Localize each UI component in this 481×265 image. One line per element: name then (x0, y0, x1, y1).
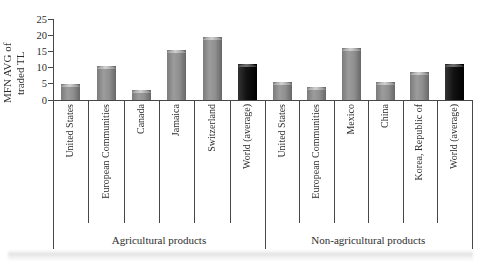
bar-nonagri-china (376, 82, 395, 100)
category-separator (368, 100, 369, 223)
y-tick-label-10: 10 (19, 61, 47, 74)
category-separator (334, 100, 335, 223)
category-separator (159, 100, 160, 223)
bar-agri-united-states (61, 84, 80, 100)
group-label-non-agricultural-products: Non-agricultural products (265, 234, 472, 247)
category-separator (194, 100, 195, 223)
bar-top-highlight (273, 82, 292, 85)
mid-group-divider (265, 100, 266, 249)
bar-nonagri-european-communities (307, 87, 326, 100)
y-tick-label-5: 5 (19, 77, 47, 90)
bar-nonagri-mexico (342, 48, 361, 100)
bar-top-highlight (61, 84, 80, 87)
left-group-border (53, 100, 54, 249)
category-label-agri-jamaica: Jamaica (170, 104, 182, 136)
category-label-nonagri-china: China (379, 104, 391, 128)
category-label-agri-european-communities: European Communities (100, 104, 112, 199)
group-label-agricultural-products: Agricultural products (53, 234, 265, 247)
plot-area: 0510152025United StatesEuropean Communit… (0, 0, 481, 265)
bar-top-highlight (97, 66, 116, 69)
bar-agri-world-average (238, 64, 257, 100)
bar-nonagri-united-states (273, 82, 292, 100)
category-label-nonagri-korea-republic-of: Korea, Republic of (413, 104, 425, 180)
category-separator (403, 100, 404, 223)
bar-agri-european-communities (97, 66, 116, 100)
category-label-agri-canada: Canada (135, 104, 147, 134)
bar-top-highlight (376, 82, 395, 85)
category-separator (230, 100, 231, 223)
category-separator (124, 100, 125, 223)
bar-nonagri-korea-republic-of (410, 72, 429, 100)
bar-agri-jamaica (167, 50, 186, 100)
category-label-nonagri-united-states: United States (276, 104, 288, 158)
bar-top-highlight (167, 50, 186, 53)
category-label-agri-switzerland: Switzerland (206, 104, 218, 152)
right-group-border (472, 100, 473, 249)
y-axis-line (53, 19, 54, 100)
y-tick-label-20: 20 (19, 29, 47, 42)
mfn-tariff-bar-chart: MFN AVG of traded TL 0510152025United St… (0, 0, 481, 265)
category-separator (299, 100, 300, 223)
category-separator (437, 100, 438, 223)
y-tick-label-25: 25 (19, 13, 47, 26)
bar-top-highlight (342, 48, 361, 51)
bar-top-highlight (203, 37, 222, 40)
category-label-nonagri-european-communities: European Communities (310, 104, 322, 199)
category-separator (88, 100, 89, 223)
category-label-agri-united-states: United States (64, 104, 76, 158)
bar-agri-switzerland (203, 37, 222, 100)
bar-top-highlight (410, 72, 429, 75)
bar-top-highlight (445, 64, 464, 67)
category-label-agri-world-average: World (average) (241, 104, 253, 169)
bar-agri-canada (132, 90, 151, 100)
bar-nonagri-world-average (445, 64, 464, 100)
bar-top-highlight (132, 90, 151, 93)
bar-top-highlight (238, 64, 257, 67)
category-label-nonagri-world-average: World (average) (448, 104, 460, 169)
y-tick-label-0: 0 (19, 94, 47, 107)
bar-top-highlight (307, 87, 326, 90)
category-label-nonagri-mexico: Mexico (345, 104, 357, 135)
y-tick-label-15: 15 (19, 45, 47, 58)
